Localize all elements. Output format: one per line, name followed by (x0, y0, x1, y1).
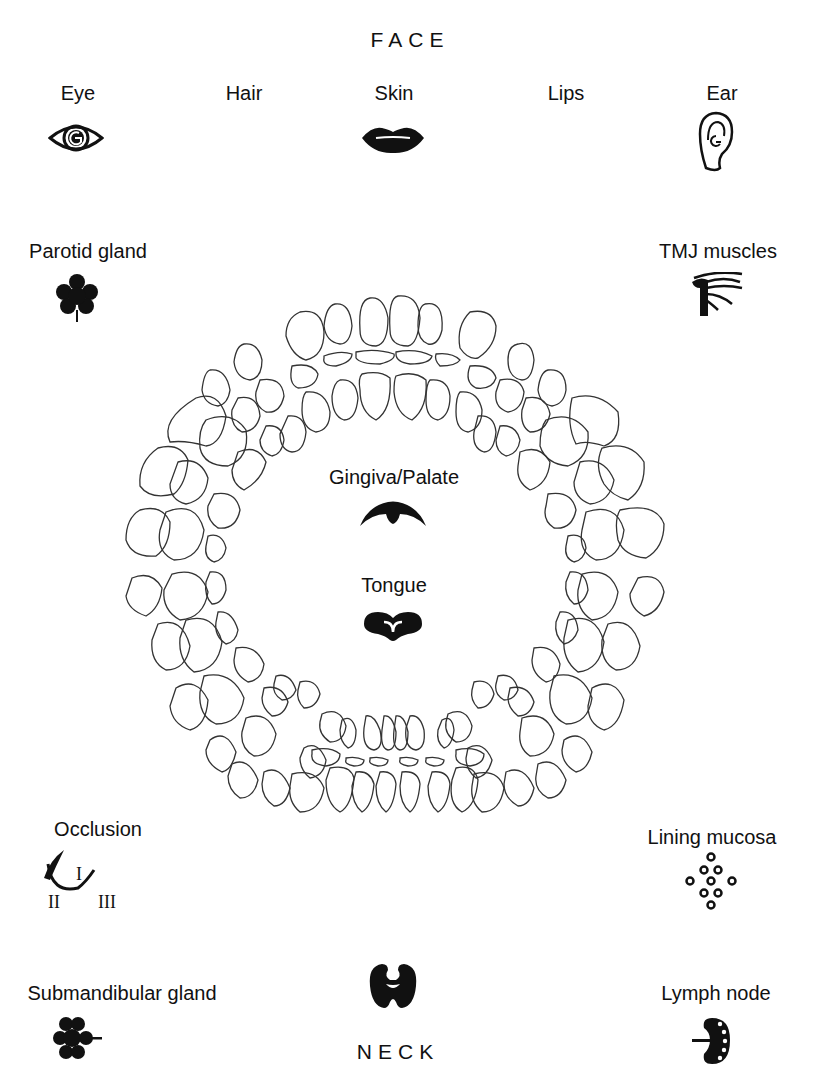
lining-mucosa-icon (684, 852, 738, 910)
occlusion-icon: I II III (28, 850, 128, 910)
tooth-upper-21 (360, 298, 388, 346)
dental-arch-chart (0, 0, 816, 1087)
thyroid-icon (368, 962, 418, 1010)
tongue-icon (360, 610, 426, 642)
palate-icon (358, 500, 428, 528)
label-gingiva-palate: Gingiva/Palate (329, 466, 459, 489)
label-occlusion: Occlusion (54, 818, 142, 841)
label-tongue: Tongue (361, 574, 427, 597)
svg-text:II: II (48, 892, 60, 910)
label-lymph-node: Lymph node (661, 982, 770, 1005)
label-lining-mucosa: Lining mucosa (648, 826, 777, 849)
lymph-node-icon (690, 1016, 736, 1066)
svg-text:III: III (98, 892, 116, 910)
label-submandibular-gland: Submandibular gland (27, 982, 216, 1005)
submandibular-gland-icon (52, 1016, 104, 1062)
tooth-upper-11 (390, 296, 420, 346)
svg-text:I: I (76, 864, 82, 884)
neck-title: NECK (357, 1040, 439, 1064)
